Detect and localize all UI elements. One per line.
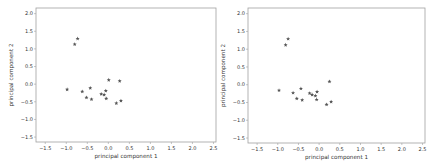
y-tick-label: −1.5 [21,134,33,140]
y-tick-label: 1.5 [25,28,33,34]
scatter-plot-right: −1.5−1.0−0.50.00.51.01.52.02.5−1.5−1.0−0… [220,8,426,161]
x-tick-label: −1.5 [39,145,51,151]
y-tick-label: −0.5 [21,99,33,105]
y-tick-label: 2.0 [237,10,245,16]
y-tick-label: 1.0 [25,46,33,52]
y-tick-label: 1.5 [237,28,245,34]
x-tick-label: −0.5 [292,146,304,152]
y-tick-label: −1.0 [233,117,245,123]
y-axis-label: principal component 2 [220,44,227,107]
x-tick-label: 1.5 [167,145,175,151]
x-tick-label: −1.5 [251,146,263,152]
x-tick-label: −1.0 [272,146,284,152]
x-tick-label: 2.5 [210,145,218,151]
x-tick-label: 1.0 [146,145,154,151]
x-tick-label: −1.0 [60,145,72,151]
x-tick-label: 2.5 [419,146,427,152]
y-tick-label: −1.0 [21,116,33,122]
y-tick-label: 1.0 [237,46,245,52]
x-tick-label: 0.0 [104,145,112,151]
y-axis-label: principal component 2 [8,44,15,107]
y-tick-label: −0.5 [233,99,245,105]
x-axis-label: principal component 1 [95,153,158,160]
x-tick-label: 2.0 [188,145,196,151]
x-axis-label: principal component 1 [305,154,368,161]
y-tick-label: 0.5 [237,64,245,70]
figure: −1.5−1.0−0.50.00.51.01.52.02.5−1.5−1.0−0… [0,0,445,165]
y-tick-label: 0.5 [25,63,33,69]
y-tick-label: −1.5 [233,135,245,141]
y-tick-label: 0.0 [237,81,245,87]
x-tick-label: 0.0 [315,146,323,152]
x-tick-label: 1.5 [377,146,385,152]
plot-frame [36,8,216,142]
x-tick-label: −0.5 [81,145,93,151]
x-tick-label: 0.5 [336,146,344,152]
y-tick-label: 0.0 [25,81,33,87]
scatter-plot-left: −1.5−1.0−0.50.00.51.01.52.02.5−1.5−1.0−0… [8,8,217,160]
x-tick-label: 1.0 [357,146,365,152]
x-tick-label: 0.5 [125,145,133,151]
x-tick-label: 2.0 [398,146,406,152]
plot-frame [248,8,425,143]
y-tick-label: 2.0 [25,10,33,16]
